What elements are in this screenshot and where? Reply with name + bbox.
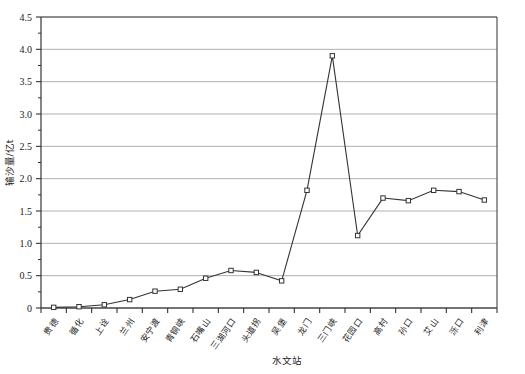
- data-point-marker: [457, 189, 461, 193]
- data-point-marker: [279, 279, 283, 283]
- data-point-marker: [51, 305, 55, 309]
- data-point-marker: [431, 188, 435, 192]
- x-axis-title: 水文站: [272, 355, 302, 366]
- data-point-marker: [229, 268, 233, 272]
- data-point-marker: [153, 289, 157, 293]
- data-point-marker: [127, 297, 131, 301]
- sediment-load-line-chart: 00.51.01.52.02.53.03.54.04.5 贵德循化上诠兰州安宁渡…: [0, 0, 525, 374]
- y-tick-label: 0: [27, 303, 32, 314]
- data-point-marker: [254, 270, 258, 274]
- data-point-marker: [330, 54, 334, 58]
- chart-canvas: 00.51.01.52.02.53.03.54.04.5 贵德循化上诠兰州安宁渡…: [0, 0, 525, 374]
- data-point-marker: [102, 303, 106, 307]
- y-tick-label: 3.0: [20, 109, 33, 120]
- y-tick-label: 2.5: [20, 141, 33, 152]
- data-point-marker: [305, 188, 309, 192]
- y-tick-label: 4.0: [20, 44, 33, 55]
- data-point-marker: [77, 305, 81, 309]
- y-tick-label: 1.0: [20, 238, 33, 249]
- y-tick-label: 2.0: [20, 173, 33, 184]
- y-tick-label: 4.5: [20, 12, 33, 23]
- data-point-marker: [178, 287, 182, 291]
- data-point-marker: [203, 276, 207, 280]
- y-tick-label: 3.5: [20, 76, 33, 87]
- data-point-marker: [355, 233, 359, 237]
- data-point-marker: [406, 198, 410, 202]
- data-point-marker: [482, 198, 486, 202]
- y-tick-label: 0.5: [20, 270, 33, 281]
- y-axis-title: 输沙量/亿t: [4, 139, 15, 186]
- y-tick-label: 1.5: [20, 206, 33, 217]
- data-point-marker: [381, 196, 385, 200]
